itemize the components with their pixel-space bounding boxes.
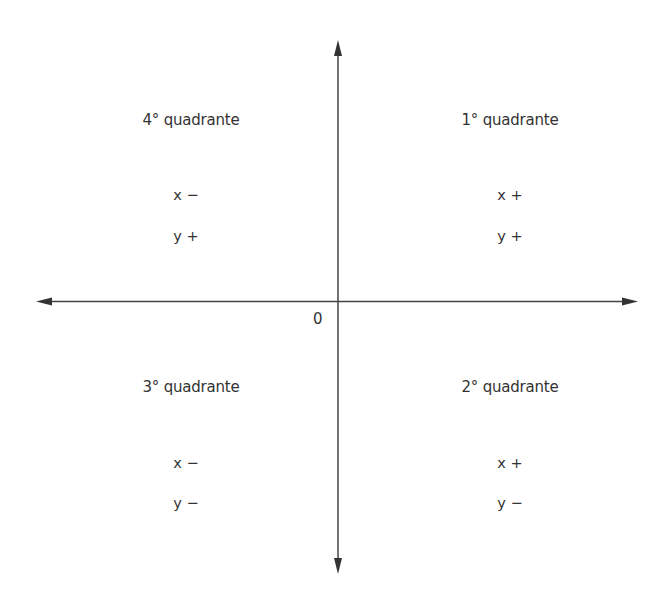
x-sign: x + <box>485 187 535 203</box>
axes <box>0 0 659 594</box>
x-sign: x − <box>161 187 211 203</box>
quadrant-title: 2° quadrante <box>450 378 570 396</box>
y-sign: y + <box>161 228 211 244</box>
x-sign: x + <box>485 455 535 471</box>
origin-label: 0 <box>313 310 323 328</box>
x-sign: x − <box>161 455 211 471</box>
y-sign: y − <box>485 495 535 511</box>
cartesian-diagram: 0 4° quadrante x − y + 1° quadrante x + … <box>0 0 659 594</box>
arrow-right-icon <box>622 298 638 306</box>
y-axis <box>334 40 342 574</box>
arrow-left-icon <box>36 298 52 306</box>
y-sign: y + <box>485 228 535 244</box>
arrow-down-icon <box>334 558 342 574</box>
quadrant-title: 3° quadrante <box>131 378 251 396</box>
x-axis <box>36 298 638 306</box>
arrow-up-icon <box>334 40 342 56</box>
quadrant-title: 4° quadrante <box>131 111 251 129</box>
quadrant-title: 1° quadrante <box>450 111 570 129</box>
y-sign: y − <box>161 495 211 511</box>
